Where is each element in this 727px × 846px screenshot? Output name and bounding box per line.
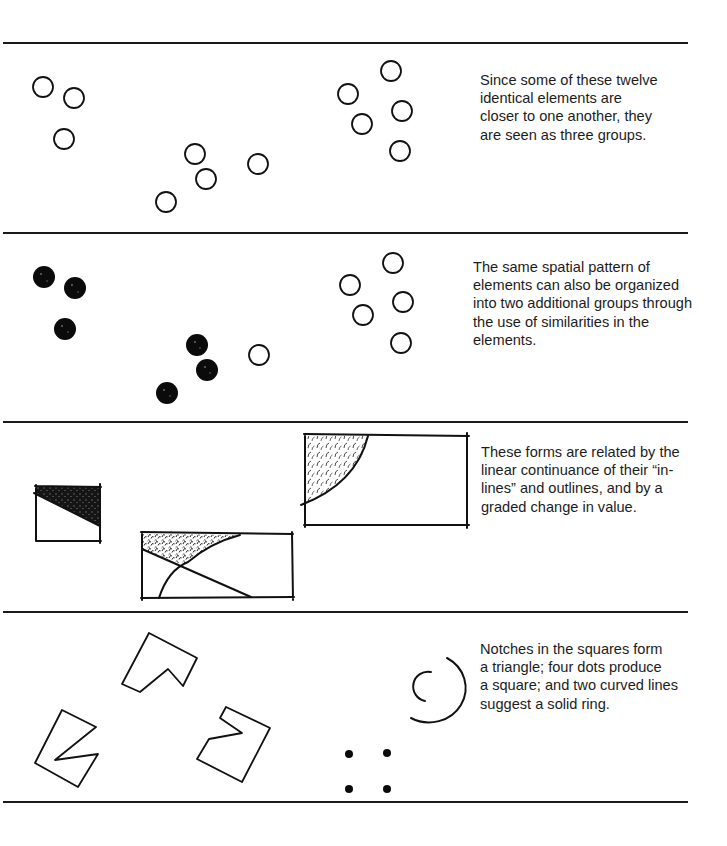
implied-ring <box>411 658 466 722</box>
caption-similarity: The same spatial pattern of elements can… <box>473 258 692 349</box>
open-circle-icon <box>64 88 84 108</box>
circle-group-right <box>338 61 412 161</box>
caption-closure: Notches in the squares form a triangle; … <box>480 640 678 713</box>
open-circle-icon <box>392 101 412 121</box>
open-circle-icon <box>338 84 358 104</box>
filled-circle-group <box>33 266 218 404</box>
open-circle-icon <box>381 61 401 81</box>
medium-rectangle <box>141 532 294 600</box>
filled-circle-icon <box>54 318 76 340</box>
notched-square-top <box>122 633 197 692</box>
open-circle-icon <box>393 292 413 312</box>
open-circle-icon <box>248 154 268 174</box>
open-circle-icon <box>383 253 403 273</box>
open-circle-icon <box>352 114 372 134</box>
caption-proximity: Since some of these twelve identical ele… <box>480 71 658 144</box>
circle-group-left <box>33 77 84 149</box>
small-rectangle <box>34 484 101 543</box>
open-circle-icon <box>353 305 373 325</box>
open-circle-icon <box>249 345 269 365</box>
dot-icon <box>383 785 391 793</box>
dot-icon <box>345 785 353 793</box>
open-circle-icon <box>196 169 216 189</box>
filled-circle-icon <box>186 334 208 356</box>
filled-circle-icon <box>64 277 86 299</box>
notched-square-left <box>35 710 98 787</box>
open-circle-icon <box>185 144 205 164</box>
open-circle-icon <box>340 275 360 295</box>
filled-circle-icon <box>156 382 178 404</box>
similarity-figure <box>33 253 413 404</box>
large-rectangle <box>301 433 469 528</box>
four-dots-square <box>345 749 391 793</box>
open-circle-icon <box>391 333 411 353</box>
continuance-figure <box>34 433 469 600</box>
circle-group-middle <box>156 144 268 212</box>
open-circle-icon <box>33 77 53 97</box>
notched-square-right <box>197 707 270 782</box>
filled-circle-icon <box>196 359 218 381</box>
open-circle-icon <box>54 129 74 149</box>
dot-icon <box>345 750 353 758</box>
closure-figure <box>35 633 466 793</box>
dot-icon <box>383 749 391 757</box>
gestalt-principles-page: Since some of these twelve identical ele… <box>0 0 727 846</box>
outer-arc <box>411 658 466 722</box>
open-circle-icon <box>390 141 410 161</box>
proximity-figure <box>33 61 412 212</box>
caption-continuance: These forms are related by the linear co… <box>481 443 680 516</box>
open-circle-group <box>249 253 413 365</box>
open-circle-icon <box>156 192 176 212</box>
filled-circle-icon <box>33 266 55 288</box>
inner-arc <box>413 672 431 701</box>
